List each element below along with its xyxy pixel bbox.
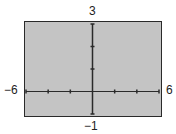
axes [0, 0, 176, 134]
